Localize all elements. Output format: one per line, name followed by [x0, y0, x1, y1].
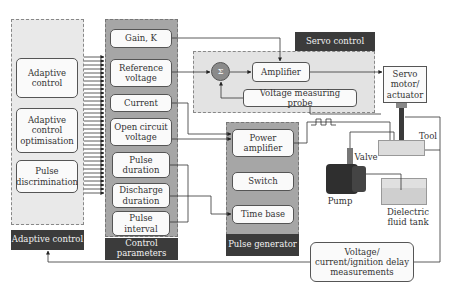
connection-lines: [0, 0, 452, 287]
